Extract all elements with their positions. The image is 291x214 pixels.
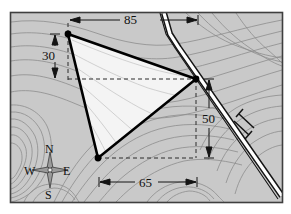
- dimension-label-85: 85: [124, 13, 137, 26]
- compass-label-west: W: [24, 165, 35, 177]
- station-point-bottom: [95, 155, 102, 162]
- dimension-label-50: 50: [202, 112, 215, 125]
- compass-label-south: S: [45, 189, 52, 201]
- station-point-right: [193, 76, 200, 83]
- compass-label-east: E: [63, 165, 70, 177]
- dimension-label-65: 65: [139, 176, 152, 189]
- map-figure: 85 30 50 65 N S E W: [0, 0, 291, 214]
- compass-label-north: N: [45, 143, 54, 155]
- compass-hub: [48, 168, 52, 172]
- dimension-label-30: 30: [42, 49, 55, 62]
- station-point-top-left: [65, 31, 72, 38]
